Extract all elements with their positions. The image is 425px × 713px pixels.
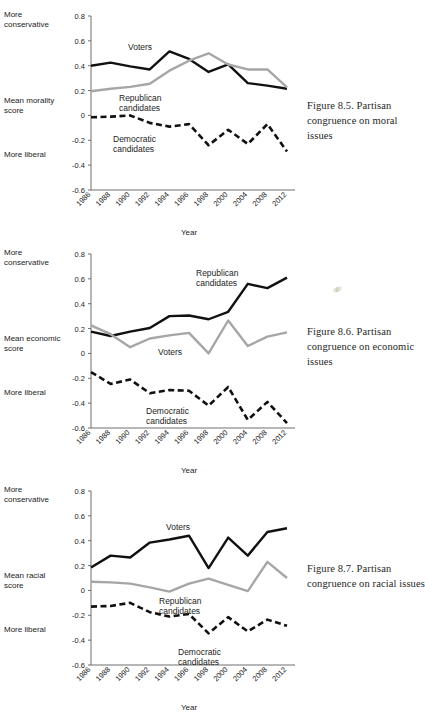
svg-text:1996: 1996 [172,428,190,446]
svg-text:1992: 1992 [133,665,151,683]
svg-text:2008: 2008 [251,190,269,208]
series-line-1 [91,562,287,592]
x-tick-label-10: 2012 [270,665,288,683]
series-annotation-4: candidates [113,144,154,154]
y-tick-label-3: 0.2 [75,325,85,334]
series-annotation-1: Republican [159,596,202,606]
svg-text:2004: 2004 [231,428,249,446]
x-tick-label-6: 1998 [192,190,210,208]
series-annotation-2: Voters [158,347,182,357]
series-annotation-1: Republican [119,93,162,103]
series-line-1 [91,320,287,353]
x-tick-label-4: 1994 [153,190,171,208]
y-tick-label-4: 0 [81,586,85,595]
x-tick-label-9: 2008 [251,665,269,683]
series-annotation-2: candidates [119,103,160,113]
svg-text:2012: 2012 [270,428,288,446]
y-tick-label-6: -0.4 [72,636,85,645]
x-tick-label-7: 2000 [211,428,229,446]
x-tick-label-1: 1988 [94,428,112,446]
svg-text:2000: 2000 [211,665,229,683]
x-tick-label-6: 1998 [192,665,210,683]
x-tick-label-8: 2004 [231,665,249,683]
x-tick-label-9: 2008 [251,428,269,446]
series-annotation-0: Voters [166,522,190,532]
chart-svg-figure-8-6: 0.80.60.40.20-0.2-0.4-0.6198619881990199… [0,240,300,477]
x-axis-title: Year [181,703,198,712]
figure-8-7-block: More conservative Mean racial score More… [0,477,425,713]
x-tick-label-1: 1988 [94,190,112,208]
svg-text:1998: 1998 [192,428,210,446]
y-tick-label-0: 0.8 [75,250,85,259]
svg-text:1990: 1990 [113,190,131,208]
x-tick-label-8: 2004 [231,190,249,208]
svg-text:1994: 1994 [153,190,171,208]
series-annotation-4: candidates [146,416,187,426]
svg-text:1996: 1996 [172,190,190,208]
x-axis-title: Year [181,466,198,475]
series-line-0 [91,528,287,568]
x-tick-label-1: 1988 [94,665,112,683]
x-tick-label-9: 2008 [251,190,269,208]
chart-8-5: 0.80.60.40.20-0.2-0.4-0.6198619881990199… [0,2,300,239]
x-tick-label-8: 2004 [231,428,249,446]
y-tick-label-3: 0.2 [75,562,85,571]
figure-caption-8-7: Figure 8.7. Partisan congruence on racia… [307,561,425,591]
svg-text:2012: 2012 [270,665,288,683]
x-tick-label-10: 2012 [270,190,288,208]
series-annotation-1: candidates [196,278,237,288]
svg-text:1988: 1988 [94,665,112,683]
x-axis-title: Year [181,228,198,237]
y-tick-label-4: 0 [81,111,85,120]
x-tick-label-2: 1990 [113,665,131,683]
x-tick-label-2: 1990 [113,190,131,208]
svg-text:1990: 1990 [113,428,131,446]
y-tick-label-6: -0.4 [72,399,85,408]
figure-caption-8-6: Figure 8.6. Partisan congruence on econo… [307,324,425,369]
svg-text:2004: 2004 [231,190,249,208]
y-tick-label-2: 0.4 [75,537,85,546]
y-tick-label-2: 0.4 [75,62,85,71]
x-tick-label-3: 1992 [133,428,151,446]
series-annotation-3: Democratic [178,647,222,657]
y-tick-label-1: 0.6 [75,37,85,46]
svg-text:2008: 2008 [251,428,269,446]
svg-text:1996: 1996 [172,665,190,683]
svg-text:2000: 2000 [211,190,229,208]
svg-text:2000: 2000 [211,428,229,446]
series-annotation-4: candidates [178,657,219,667]
x-tick-label-7: 2000 [211,190,229,208]
svg-text:2004: 2004 [231,665,249,683]
x-tick-label-7: 2000 [211,665,229,683]
y-tick-label-5: -0.2 [72,136,85,145]
y-tick-label-3: 0.2 [75,87,85,96]
x-tick-label-5: 1996 [172,190,190,208]
series-line-0 [91,278,287,336]
y-tick-label-1: 0.6 [75,512,85,521]
x-tick-label-3: 1992 [133,665,151,683]
y-tick-label-1: 0.6 [75,275,85,284]
series-annotation-3: Democratic [146,406,190,416]
svg-text:1998: 1998 [192,190,210,208]
svg-text:1998: 1998 [192,665,210,683]
figure-8-6-block: More conservative Mean economic score Mo… [0,240,425,477]
figure-page: More conservative Mean morality score Mo… [0,0,425,713]
series-annotation-0: Republican [196,268,239,278]
x-tick-label-4: 1994 [153,665,171,683]
y-tick-label-2: 0.4 [75,300,85,309]
x-tick-label-10: 2012 [270,428,288,446]
series-line-2 [91,372,287,423]
svg-text:1992: 1992 [133,428,151,446]
x-tick-label-5: 1996 [172,665,190,683]
y-tick-label-0: 0.8 [75,12,85,21]
chart-8-7: 0.80.60.40.20-0.2-0.4-0.6198619881990199… [0,477,300,713]
chart-svg-figure-8-5: 0.80.60.40.20-0.2-0.4-0.6198619881990199… [0,2,300,239]
x-tick-label-5: 1996 [172,428,190,446]
y-tick-label-4: 0 [81,349,85,358]
svg-text:1990: 1990 [113,665,131,683]
svg-text:1988: 1988 [94,190,112,208]
svg-text:2012: 2012 [270,190,288,208]
y-tick-label-5: -0.2 [72,611,85,620]
series-annotation-2: candidates [159,606,200,616]
figure-8-5-block: More conservative Mean morality score Mo… [0,2,425,239]
